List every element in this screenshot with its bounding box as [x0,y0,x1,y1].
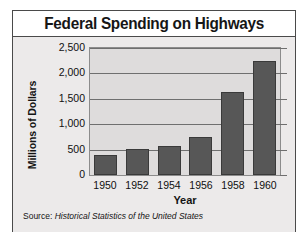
source-text: Historical Statistics of the United Stat… [55,211,203,221]
y-axis-tick-mark [280,124,287,125]
bar [221,92,244,175]
source-label: Source: [23,211,52,221]
chart-title-band: Federal Spending on Highways [13,11,295,37]
plot-area [89,47,281,176]
x-axis-tick-label: 1950 [89,179,121,191]
x-axis-tick-label: 1958 [217,179,249,191]
bar [94,155,117,175]
y-axis-tick-label: 2,500 [39,41,85,53]
source-note: Source: Historical Statistics of the Uni… [23,211,203,221]
page-title: Federal Spending on Highways [44,14,264,33]
y-axis-tick-mark [280,175,287,176]
bar-series [90,48,280,175]
y-axis-tick-mark [280,73,287,74]
x-axis-tick-label: 1954 [153,179,185,191]
x-axis-tick-label: 1952 [121,179,153,191]
x-axis-tick-label: 1960 [249,179,281,191]
y-axis-tick-label: 1,000 [39,117,85,129]
y-axis-tick-label: 1,500 [39,92,85,104]
y-axis-tick-label: 0 [39,168,85,180]
bar [126,149,149,175]
chart-body: Millions of Dollars 05001,0001,5002,0002… [13,37,295,232]
chart-figure: Federal Spending on Highways Millions of… [12,10,296,232]
x-axis-tick-label: 1956 [185,179,217,191]
y-axis-tick-mark [280,48,287,49]
y-axis-tick-label: 2,000 [39,66,85,78]
y-axis-tick-labels: 05001,0001,5002,0002,500 [37,37,85,232]
y-axis-tick-mark [280,99,287,100]
x-axis-title: Year [89,194,281,206]
y-axis-tick-label: 500 [39,143,85,155]
bar [189,137,212,175]
x-axis-tick-labels: 195019521954195619581960 [89,179,281,191]
bar [158,146,181,175]
bar [253,61,276,175]
y-axis-tick-mark [280,150,287,151]
